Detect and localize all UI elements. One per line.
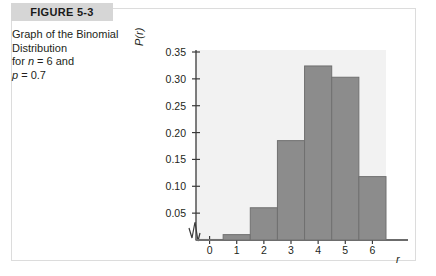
- figure-header-band: FIGURE 5-3: [11, 3, 113, 21]
- caption-line-4: p = 0.7: [12, 69, 152, 83]
- caption-line-3: for n = 6 and: [12, 55, 152, 69]
- caption-line-1: Graph of the Binomial: [12, 28, 152, 42]
- figure-number-label: FIGURE 5-3: [30, 6, 94, 18]
- caption-line-2: Distribution: [12, 42, 152, 56]
- figure-caption: Graph of the Binomial Distribution for n…: [12, 28, 152, 82]
